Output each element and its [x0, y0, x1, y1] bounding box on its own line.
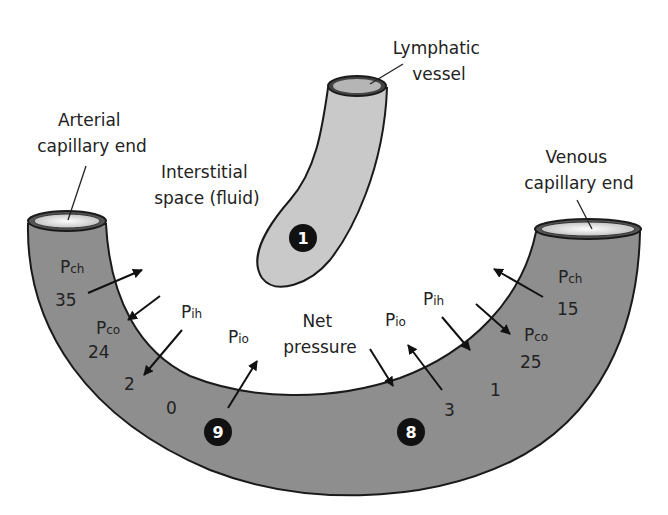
svg-text:8: 8: [405, 423, 416, 442]
badge-arterial-net: 9: [204, 418, 232, 446]
venous-pio-label: Pio: [385, 310, 406, 330]
arterial-pio-label: Pio: [228, 327, 249, 347]
capillary-exchange-diagram: Arterial capillary end Venous capillary …: [0, 0, 668, 515]
svg-text:1: 1: [297, 229, 308, 248]
arterial-pco-value: 24: [88, 342, 110, 362]
net-pressure-label: Net pressure: [283, 311, 356, 357]
venous-pch-value: 15: [557, 299, 579, 319]
arterial-opening: [28, 211, 106, 231]
arterial-pco-arrow: [128, 296, 160, 320]
interstitial-label: Interstitial space (fluid): [154, 162, 260, 208]
lymphatic-label: Lymphatic vessel: [393, 38, 486, 84]
badge-lymph: 1: [289, 224, 317, 252]
venous-pih-arrow: [442, 317, 470, 350]
venous-label: Venous capillary end: [524, 147, 634, 193]
venous-pio-value: 3: [444, 400, 455, 420]
arterial-pio-value: 0: [166, 398, 177, 418]
badge-venous-net: 8: [397, 418, 425, 446]
capillary-tube: [28, 224, 640, 495]
arterial-pch-value: 35: [55, 290, 77, 310]
venous-pih-value: 1: [490, 380, 501, 400]
venous-net-arrow: [370, 349, 393, 386]
venous-pih-label: Pih: [423, 289, 444, 309]
arterial-pih-value: 2: [124, 374, 135, 394]
venous-pco-value: 25: [520, 352, 542, 372]
svg-text:9: 9: [212, 423, 223, 442]
lymphatic-vessel: [257, 76, 387, 287]
arterial-pih-label: Pih: [181, 302, 202, 322]
arterial-label: Arterial capillary end: [37, 110, 147, 156]
lymph-leader-line: [370, 64, 403, 84]
